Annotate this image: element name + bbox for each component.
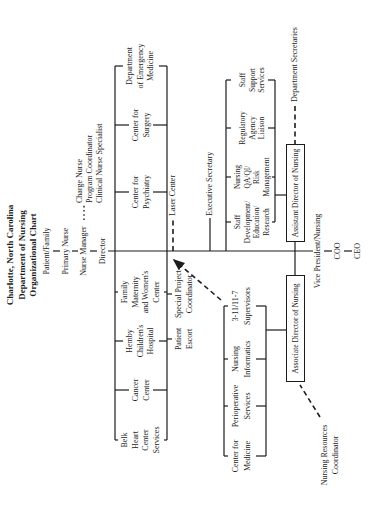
node-charge-nurse-group: Charge Nurse Program Coordinator Clinica… xyxy=(75,93,105,203)
node-department-secretaries: Department Secretaries xyxy=(290,4,300,102)
chart-title: Charlotte, North Carolina Department of … xyxy=(5,155,40,355)
nursing-resources-dashed-line xyxy=(300,385,320,417)
node-primary-nurse: Primary Nurse xyxy=(61,201,71,301)
box-assistant-director: Assistant Director of Nursing xyxy=(286,144,305,242)
node-dept-emergency-medicine: Department of Emergency Medicine xyxy=(125,16,157,116)
node-patient-family: Patient/Family xyxy=(42,201,52,301)
node-coo: COO xyxy=(333,221,343,281)
org-chart-page: Charlotte, North Carolina Department of … xyxy=(0,0,371,518)
node-nurse-manager: Nurse Manager xyxy=(79,201,89,301)
node-special-project-coordinator: Special Project Coordinator xyxy=(174,254,195,334)
node-executive-secretary: Executive Secretary xyxy=(205,121,215,216)
box-associate-director: Associate Director of Nursing xyxy=(286,275,305,382)
node-ceo: CEO xyxy=(353,221,363,281)
node-laser-center: Laser Center xyxy=(168,146,178,216)
org-chart-canvas: Charlotte, North Carolina Department of … xyxy=(0,0,371,518)
node-staff-support-services: Staff Support Services xyxy=(238,39,267,121)
node-shift-supervisors: 3-11/11-7 Supervisors xyxy=(230,261,254,351)
node-director: Director xyxy=(98,201,108,301)
node-family-maternity-center: Family Maternity and Women's Center xyxy=(120,242,162,342)
node-nursing-resources-coordinator: Nursing Resources Coordinator xyxy=(319,410,341,500)
node-vice-president-nursing: Vice President/Nursing xyxy=(313,191,323,311)
